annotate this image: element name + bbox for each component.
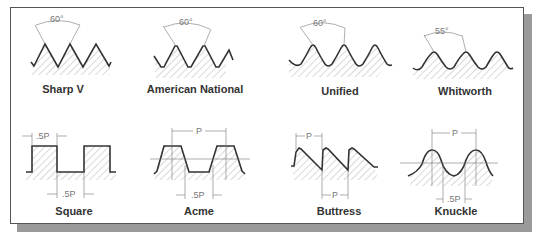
buttress-drawing: P P (291, 131, 378, 200)
bottom-dimension-label: P (332, 190, 338, 200)
thread-forms-diagram: 60° 60° 60° 55° .5P (0, 0, 535, 237)
american-national-drawing: 60° (154, 17, 233, 78)
angle-label: 60° (50, 14, 64, 24)
bottom-dimension-label: .5P (447, 194, 461, 204)
label-american-national: American National (140, 83, 250, 95)
angle-label: 55° (435, 26, 449, 36)
label-sharp-v: Sharp V (28, 83, 98, 95)
sharp-v-drawing: 60° (31, 14, 111, 75)
label-acme: Acme (174, 205, 224, 217)
unified-drawing: 60° (289, 18, 392, 77)
label-knuckle: Knuckle (424, 205, 488, 217)
square-drawing: .5P .5P (22, 131, 116, 199)
angle-label: 60° (179, 17, 193, 27)
angle-label: 60° (313, 18, 327, 28)
label-unified: Unified (310, 85, 370, 97)
acme-drawing: P .5P (150, 126, 250, 200)
knuckle-drawing: P .5P (400, 128, 498, 204)
label-buttress: Buttress (304, 205, 374, 217)
bottom-dimension-label: .5P (191, 190, 205, 200)
top-dimension-label: P (196, 126, 202, 136)
top-dimension-label: .5P (36, 131, 50, 141)
top-dimension-label: P (452, 128, 458, 138)
label-whitworth: Whitworth (430, 85, 500, 97)
label-square: Square (44, 205, 104, 217)
top-dimension-label: P (306, 131, 312, 141)
bottom-dimension-label: .5P (62, 189, 76, 199)
whitworth-drawing: 55° (413, 26, 513, 79)
